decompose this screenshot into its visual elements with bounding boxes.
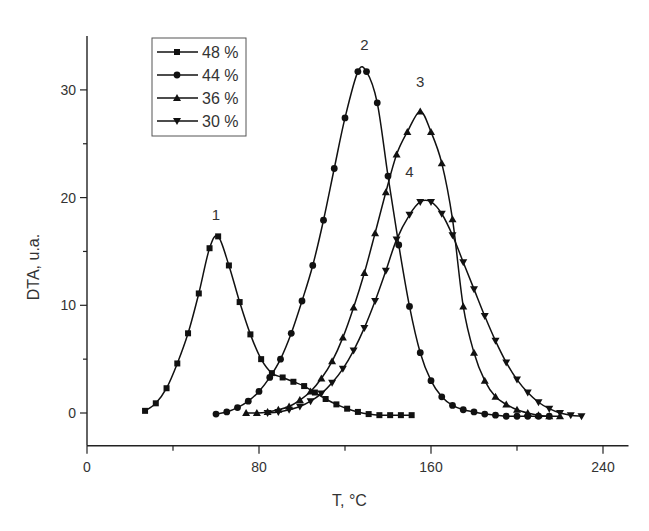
square-marker-icon — [387, 412, 393, 418]
circle-marker-icon — [320, 217, 327, 224]
square-marker-icon — [398, 412, 404, 418]
circle-marker-icon — [309, 262, 316, 269]
x-axis-label: T, °C — [332, 492, 367, 510]
square-marker-icon — [290, 379, 296, 385]
square-marker-icon — [215, 233, 221, 239]
circle-marker-icon — [406, 303, 413, 310]
series-30-pct — [264, 199, 586, 420]
square-marker-icon — [344, 406, 350, 412]
square-marker-icon — [323, 396, 329, 402]
y-tick-label: 20 — [60, 190, 76, 206]
triangle-down-marker-icon — [382, 268, 390, 275]
circle-marker-icon — [355, 68, 362, 75]
square-marker-icon — [258, 356, 264, 362]
triangle-down-marker-icon — [307, 398, 315, 405]
circle-marker-icon — [492, 412, 499, 419]
square-marker-icon — [355, 409, 361, 415]
circle-marker-icon — [331, 165, 338, 172]
circle-marker-icon — [481, 411, 488, 418]
triangle-up-marker-icon — [382, 188, 390, 195]
square-marker-icon — [366, 411, 372, 417]
square-marker-icon — [174, 49, 180, 55]
triangle-down-marker-icon — [406, 212, 414, 219]
triangle-down-marker-icon — [360, 325, 368, 332]
y-tick-label: 0 — [68, 405, 76, 421]
legend-label: 36 % — [202, 90, 238, 107]
circle-marker-icon — [223, 409, 230, 416]
legend-label: 30 % — [202, 113, 238, 130]
circle-marker-icon — [449, 402, 456, 409]
square-marker-icon — [164, 385, 170, 391]
square-marker-icon — [185, 330, 191, 336]
triangle-up-marker-icon — [449, 215, 457, 222]
triangle-down-marker-icon — [535, 399, 543, 406]
circle-marker-icon — [277, 356, 284, 363]
triangle-down-marker-icon — [371, 298, 379, 305]
circle-marker-icon — [428, 377, 435, 384]
series-line — [246, 111, 560, 416]
triangle-up-marker-icon — [339, 334, 347, 341]
circle-marker-icon — [299, 298, 306, 305]
square-marker-icon — [409, 412, 415, 418]
legend: 48 %44 %36 %30 % — [152, 38, 246, 136]
series-44-pct — [213, 67, 553, 420]
y-axis-label: DTA, u.a. — [25, 227, 43, 307]
circle-marker-icon — [363, 68, 370, 75]
triangle-up-marker-icon — [328, 357, 336, 364]
peak-label: 3 — [416, 73, 424, 90]
square-marker-icon — [280, 374, 286, 380]
triangle-down-marker-icon — [481, 313, 489, 320]
triangle-down-marker-icon — [459, 259, 467, 266]
triangle-up-marker-icon — [360, 269, 368, 276]
triangle-up-marker-icon — [438, 159, 446, 166]
triangle-up-marker-icon — [470, 349, 478, 356]
square-marker-icon — [196, 290, 202, 296]
circle-marker-icon — [460, 406, 467, 413]
square-marker-icon — [301, 383, 307, 389]
x-tick-label: 0 — [83, 459, 91, 475]
triangle-up-marker-icon — [459, 302, 467, 309]
circle-marker-icon — [417, 349, 424, 356]
circle-marker-icon — [256, 388, 263, 395]
square-marker-icon — [153, 400, 159, 406]
circle-marker-icon — [288, 330, 295, 337]
triangle-down-marker-icon — [492, 338, 500, 345]
square-marker-icon — [142, 408, 148, 414]
circle-marker-icon — [503, 413, 510, 420]
triangle-up-marker-icon — [502, 400, 510, 407]
circle-marker-icon — [514, 413, 521, 420]
triangle-up-marker-icon — [427, 128, 435, 135]
circle-marker-icon — [174, 72, 181, 79]
triangle-up-marker-icon — [481, 377, 489, 384]
square-marker-icon — [247, 331, 253, 337]
dta-chart: 0102030080160240 1234 48 %44 %36 %30 % — [0, 0, 649, 531]
square-marker-icon — [237, 299, 243, 305]
y-tick-label: 30 — [60, 82, 76, 98]
circle-marker-icon — [374, 99, 381, 106]
x-tick-label: 240 — [591, 459, 615, 475]
series-line — [216, 67, 549, 417]
square-marker-icon — [207, 245, 213, 251]
circle-marker-icon — [213, 411, 220, 418]
square-marker-icon — [226, 262, 232, 268]
triangle-down-marker-icon — [545, 406, 553, 413]
circle-marker-icon — [438, 393, 445, 400]
circle-marker-icon — [245, 398, 252, 405]
triangle-down-marker-icon — [470, 286, 478, 293]
triangle-up-marker-icon — [371, 229, 379, 236]
peak-label: 2 — [360, 36, 368, 53]
series-36-pct — [242, 107, 564, 419]
square-marker-icon — [333, 401, 339, 407]
circle-marker-icon — [266, 374, 273, 381]
triangle-down-marker-icon — [350, 348, 358, 355]
square-marker-icon — [174, 360, 180, 366]
triangle-up-marker-icon — [416, 107, 424, 114]
x-tick-label: 80 — [251, 459, 267, 475]
circle-marker-icon — [234, 404, 241, 411]
triangle-down-marker-icon — [502, 359, 510, 366]
circle-marker-icon — [342, 115, 349, 122]
legend-label: 44 % — [202, 67, 238, 84]
triangle-up-marker-icon — [350, 303, 358, 310]
x-tick-label: 160 — [419, 459, 443, 475]
series-48-pct — [142, 233, 415, 418]
